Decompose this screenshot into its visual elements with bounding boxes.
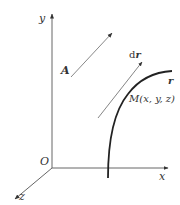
point-m-label: M(x, y, z)	[128, 93, 175, 104]
curve-r-label: r	[168, 75, 174, 86]
tangent-dr-arrow	[98, 62, 142, 118]
vector-a-arrow	[71, 33, 112, 77]
y-axis-label: y	[38, 12, 46, 25]
vector-field-diagram: y x z O A r M(x, y, z) dr	[0, 0, 180, 205]
z-axis-label: z	[18, 190, 25, 203]
curve-r	[108, 71, 172, 178]
x-axis-label: x	[159, 170, 166, 183]
origin-label: O	[40, 155, 49, 168]
tangent-dr-label: dr	[129, 49, 141, 60]
vector-a-label: A	[60, 64, 70, 77]
